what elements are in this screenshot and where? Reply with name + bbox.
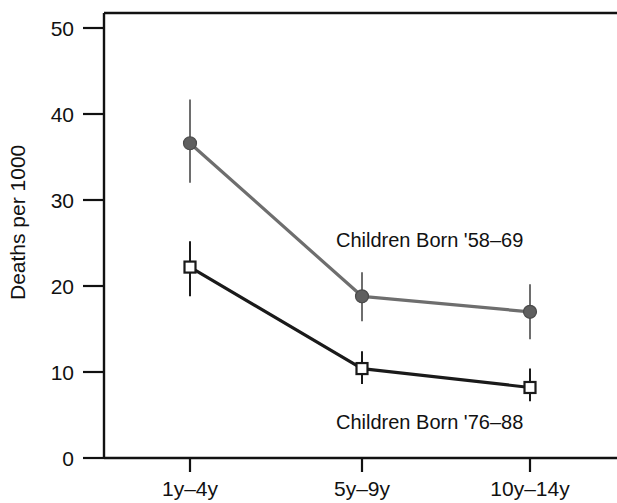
data-point-circle xyxy=(184,137,197,150)
y-axis-ticks xyxy=(83,28,104,458)
data-point-square xyxy=(185,262,196,273)
data-point-circle xyxy=(356,290,369,303)
annotation-upper-series: Children Born '58–69 xyxy=(336,229,523,251)
data-point-square xyxy=(357,363,368,374)
mortality-line-chart: Deaths per 1000 50 40 30 20 10 0 xyxy=(0,0,617,503)
error-bars-dark xyxy=(190,241,530,401)
annotation-lower-series: Children Born '76–88 xyxy=(336,411,523,433)
data-point-square xyxy=(525,382,536,393)
x-axis-ticks xyxy=(190,458,530,472)
y-tick-label-0: 0 xyxy=(62,447,74,470)
series-children-born-58-69 xyxy=(184,99,537,339)
y-tick-label-40: 40 xyxy=(51,103,74,126)
y-axis-title: Deaths per 1000 xyxy=(6,145,29,300)
data-point-circle xyxy=(524,305,537,318)
markers-gray xyxy=(184,137,537,319)
markers-dark xyxy=(185,262,536,393)
error-bars-gray xyxy=(190,99,530,339)
x-tick-label-10y-14y: 10y–14y xyxy=(490,477,570,500)
series-children-born-76-88 xyxy=(185,241,536,401)
y-tick-label-10: 10 xyxy=(51,361,74,384)
x-tick-label-5y-9y: 5y–9y xyxy=(334,477,391,500)
y-tick-label-20: 20 xyxy=(51,275,74,298)
y-tick-label-50: 50 xyxy=(51,17,74,40)
y-tick-label-30: 30 xyxy=(51,189,74,212)
series-line-gray xyxy=(190,143,530,312)
chart-container: Deaths per 1000 50 40 30 20 10 0 xyxy=(0,0,617,503)
x-tick-label-1y-4y: 1y–4y xyxy=(162,477,219,500)
